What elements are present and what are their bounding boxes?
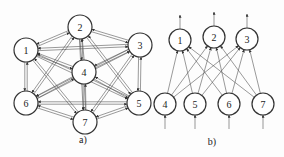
output-neuron-1: 1 xyxy=(169,29,191,51)
output-neuron-2: 2 xyxy=(203,26,225,48)
input-neuron-7: 7 xyxy=(252,93,274,115)
caption-b: b) xyxy=(208,136,216,148)
node-label: 7 xyxy=(261,99,266,110)
network-diagrams: 1234567 1234567 a) b) xyxy=(0,0,284,157)
node-label: 1 xyxy=(24,45,29,56)
caption-a: a) xyxy=(79,134,87,146)
neuron-a-3: 3 xyxy=(128,33,152,57)
neuron-a-2: 2 xyxy=(68,15,92,39)
neuron-a-5: 5 xyxy=(127,91,151,115)
node-label: 5 xyxy=(137,98,142,109)
neuron-a-4: 4 xyxy=(72,60,96,84)
neuron-a-6: 6 xyxy=(14,91,38,115)
neuron-a-1: 1 xyxy=(14,38,38,62)
node-label: 2 xyxy=(78,22,83,33)
nodes-recurrent: 1234567 xyxy=(14,15,152,134)
nodes-feedforward: 1234567 xyxy=(154,26,274,115)
node-label: 7 xyxy=(83,117,88,128)
node-label: 4 xyxy=(82,67,87,78)
node-label: 5 xyxy=(193,99,198,110)
node-label: 6 xyxy=(227,99,232,110)
node-label: 1 xyxy=(178,35,183,46)
output-neuron-3: 3 xyxy=(236,28,258,50)
node-label: 2 xyxy=(212,32,217,43)
diagram-figure: 1234567 1234567 a) b) xyxy=(0,0,284,157)
node-label: 4 xyxy=(163,99,168,110)
input-neuron-6: 6 xyxy=(218,93,240,115)
node-label: 3 xyxy=(138,40,143,51)
input-neuron-4: 4 xyxy=(154,93,176,115)
input-neuron-5: 5 xyxy=(184,93,206,115)
neuron-a-7: 7 xyxy=(73,110,97,134)
node-label: 6 xyxy=(24,98,29,109)
node-label: 3 xyxy=(245,34,250,45)
